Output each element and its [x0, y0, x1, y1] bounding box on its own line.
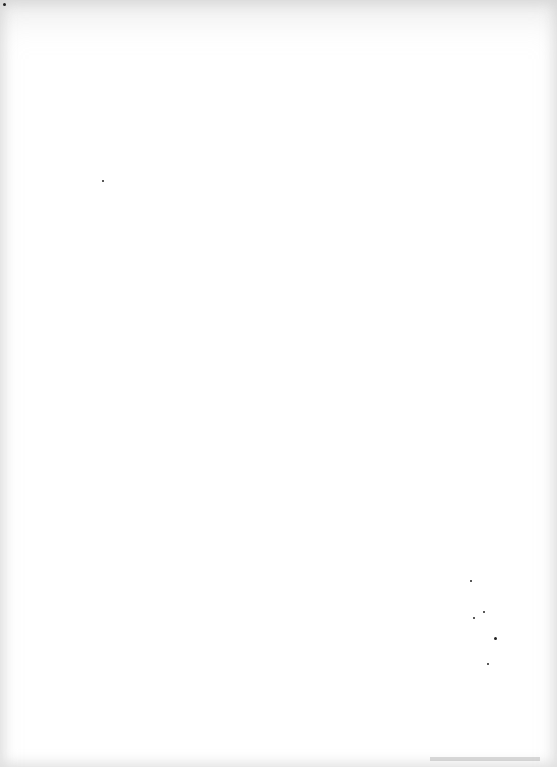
scan-smudge: [430, 757, 540, 761]
dust-speck: [470, 580, 472, 582]
dust-speck: [3, 3, 6, 6]
dust-speck: [483, 611, 485, 613]
blank-page: [0, 0, 557, 767]
dust-speck: [487, 663, 489, 665]
dust-speck: [473, 617, 475, 619]
dust-speck: [494, 637, 497, 640]
dust-speck: [102, 180, 104, 182]
